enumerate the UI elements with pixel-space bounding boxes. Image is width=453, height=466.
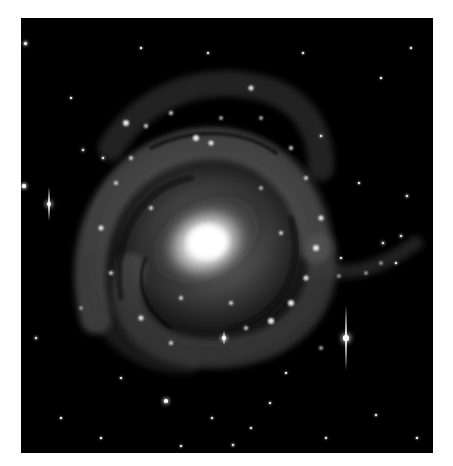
star	[60, 417, 62, 419]
star	[180, 445, 182, 447]
spiral-galaxy	[21, 18, 433, 453]
star	[416, 437, 418, 439]
star	[70, 97, 72, 99]
star	[302, 52, 304, 54]
star	[380, 77, 382, 79]
star	[250, 427, 252, 429]
star	[22, 184, 25, 187]
star	[120, 377, 122, 379]
star	[285, 372, 287, 374]
star	[24, 42, 27, 45]
star	[325, 437, 327, 439]
star	[269, 402, 271, 404]
diffraction-spike	[223, 331, 225, 345]
star	[140, 47, 142, 49]
star	[395, 262, 397, 264]
star	[340, 257, 342, 259]
star	[358, 182, 360, 184]
star	[164, 399, 168, 403]
star	[375, 414, 377, 416]
diffraction-spike	[48, 187, 50, 221]
star	[207, 52, 209, 54]
galaxy-image	[21, 18, 433, 453]
diffraction-spike	[345, 305, 347, 371]
star	[100, 437, 102, 439]
star	[211, 417, 213, 419]
star	[410, 47, 412, 49]
